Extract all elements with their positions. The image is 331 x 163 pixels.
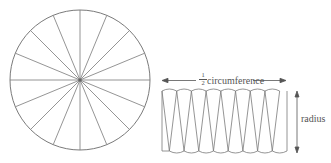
radius-label: radius	[301, 113, 325, 124]
sectored-circle	[10, 10, 150, 150]
diagram-canvas	[0, 0, 331, 163]
radius-arrow	[295, 91, 299, 153]
fraction-numerator: 1	[201, 71, 204, 78]
circumference-label: circumference	[207, 75, 264, 86]
one-half-fraction: 1 2	[199, 72, 207, 86]
rearranged-wedges	[162, 89, 287, 153]
fraction-denominator: 2	[201, 79, 204, 86]
